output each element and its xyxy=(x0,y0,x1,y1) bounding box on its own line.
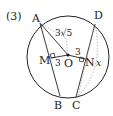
problem-number: (3) xyxy=(6,10,22,23)
label-c: C xyxy=(72,99,80,112)
label-mo-length: 3 xyxy=(55,58,61,68)
label-m: M xyxy=(39,54,50,67)
label-on-length: 3 xyxy=(75,47,81,57)
geometry-diagram: (3) A D M O N B C 3√5 3 3 x xyxy=(0,0,113,116)
label-x: x xyxy=(96,58,101,68)
label-d: D xyxy=(94,9,103,22)
label-a: A xyxy=(31,12,41,25)
label-b: B xyxy=(54,99,62,112)
label-o: O xyxy=(64,57,73,70)
label-n: N xyxy=(85,56,95,69)
label-ao-length: 3√5 xyxy=(55,28,72,38)
